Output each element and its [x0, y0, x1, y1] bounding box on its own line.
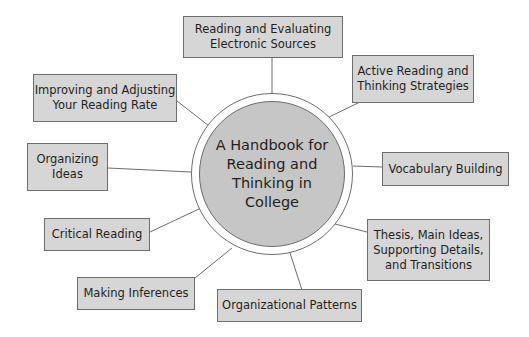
center-topic: A Handbook for Reading and Thinking in C…: [199, 101, 345, 247]
node-reading-rate: Improving and Adjusting Your Reading Rat…: [33, 74, 177, 122]
node-thesis: Thesis, Main Ideas, Supporting Details, …: [367, 219, 490, 281]
node-critical: Critical Reading: [44, 218, 150, 251]
node-vocabulary: Vocabulary Building: [382, 152, 509, 186]
node-active-reading: Active Reading and Thinking Strategies: [352, 55, 474, 103]
node-electronic-sources: Reading and Evaluating Electronic Source…: [183, 16, 343, 58]
node-inferences: Making Inferences: [77, 277, 195, 310]
node-organizing: Organizing Ideas: [27, 143, 108, 191]
node-patterns: Organizational Patterns: [217, 289, 362, 322]
